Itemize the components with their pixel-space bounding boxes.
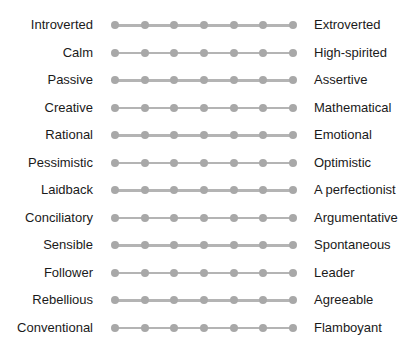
scale-point-7[interactable] (289, 131, 297, 139)
scale-point-4[interactable] (200, 214, 208, 222)
scale-point-6[interactable] (259, 76, 267, 84)
rating-scale[interactable] (111, 184, 297, 196)
scale-point-4[interactable] (200, 76, 208, 84)
scale-point-4[interactable] (200, 241, 208, 249)
scale-point-2[interactable] (141, 21, 149, 29)
scale-point-6[interactable] (259, 324, 267, 332)
scale-point-6[interactable] (259, 104, 267, 112)
rating-scale[interactable] (111, 19, 297, 31)
scale-point-2[interactable] (141, 269, 149, 277)
scale-point-6[interactable] (259, 21, 267, 29)
scale-point-1[interactable] (111, 269, 119, 277)
scale-point-3[interactable] (170, 49, 178, 57)
scale-point-1[interactable] (111, 214, 119, 222)
rating-scale[interactable] (111, 239, 297, 251)
scale-point-7[interactable] (289, 21, 297, 29)
scale-point-1[interactable] (111, 159, 119, 167)
rating-scale[interactable] (111, 129, 297, 141)
scale-point-7[interactable] (289, 324, 297, 332)
scale-point-1[interactable] (111, 76, 119, 84)
scale-point-7[interactable] (289, 104, 297, 112)
scale-point-5[interactable] (230, 186, 238, 194)
right-trait-label: High-spirited (314, 43, 387, 63)
scale-point-2[interactable] (141, 296, 149, 304)
scale-point-6[interactable] (259, 296, 267, 304)
scale-point-4[interactable] (200, 296, 208, 304)
scale-point-7[interactable] (289, 241, 297, 249)
scale-point-4[interactable] (200, 49, 208, 57)
rating-scale[interactable] (111, 47, 297, 59)
scale-point-7[interactable] (289, 269, 297, 277)
scale-point-3[interactable] (170, 269, 178, 277)
left-trait-label: Follower (44, 263, 93, 283)
scale-point-2[interactable] (141, 241, 149, 249)
scale-point-1[interactable] (111, 241, 119, 249)
scale-point-3[interactable] (170, 186, 178, 194)
scale-point-3[interactable] (170, 214, 178, 222)
scale-point-6[interactable] (259, 241, 267, 249)
scale-point-5[interactable] (230, 76, 238, 84)
scale-point-3[interactable] (170, 241, 178, 249)
scale-point-4[interactable] (200, 269, 208, 277)
scale-point-5[interactable] (230, 214, 238, 222)
scale-point-5[interactable] (230, 49, 238, 57)
scale-point-1[interactable] (111, 104, 119, 112)
scale-point-3[interactable] (170, 21, 178, 29)
scale-point-6[interactable] (259, 269, 267, 277)
scale-point-5[interactable] (230, 21, 238, 29)
scale-point-6[interactable] (259, 159, 267, 167)
scale-point-7[interactable] (289, 296, 297, 304)
scale-point-1[interactable] (111, 49, 119, 57)
scale-point-2[interactable] (141, 76, 149, 84)
rating-scale[interactable] (111, 212, 297, 224)
scale-point-1[interactable] (111, 296, 119, 304)
scale-point-7[interactable] (289, 186, 297, 194)
scale-point-4[interactable] (200, 104, 208, 112)
scale-point-4[interactable] (200, 159, 208, 167)
scale-point-6[interactable] (259, 49, 267, 57)
rating-scale[interactable] (111, 294, 297, 306)
scale-point-2[interactable] (141, 104, 149, 112)
scale-point-3[interactable] (170, 76, 178, 84)
scale-point-3[interactable] (170, 296, 178, 304)
trait-row-conciliatory-argumentative: Conciliatory Argumentative (0, 208, 420, 228)
scale-point-4[interactable] (200, 324, 208, 332)
scale-point-6[interactable] (259, 186, 267, 194)
right-trait-label: Leader (314, 263, 354, 283)
scale-point-2[interactable] (141, 49, 149, 57)
rating-scale[interactable] (111, 157, 297, 169)
scale-point-4[interactable] (200, 21, 208, 29)
scale-point-5[interactable] (230, 104, 238, 112)
scale-point-2[interactable] (141, 214, 149, 222)
scale-point-5[interactable] (230, 241, 238, 249)
scale-point-6[interactable] (259, 214, 267, 222)
rating-scale[interactable] (111, 74, 297, 86)
scale-point-1[interactable] (111, 131, 119, 139)
scale-point-3[interactable] (170, 131, 178, 139)
rating-scale[interactable] (111, 267, 297, 279)
scale-point-5[interactable] (230, 324, 238, 332)
scale-point-3[interactable] (170, 324, 178, 332)
scale-point-7[interactable] (289, 159, 297, 167)
scale-point-5[interactable] (230, 269, 238, 277)
scale-point-4[interactable] (200, 186, 208, 194)
scale-point-2[interactable] (141, 186, 149, 194)
scale-point-7[interactable] (289, 214, 297, 222)
scale-point-6[interactable] (259, 131, 267, 139)
scale-point-3[interactable] (170, 104, 178, 112)
scale-point-4[interactable] (200, 131, 208, 139)
rating-scale[interactable] (111, 102, 297, 114)
scale-point-2[interactable] (141, 159, 149, 167)
scale-point-2[interactable] (141, 324, 149, 332)
scale-point-1[interactable] (111, 21, 119, 29)
rating-scale[interactable] (111, 322, 297, 334)
scale-point-1[interactable] (111, 186, 119, 194)
scale-point-3[interactable] (170, 159, 178, 167)
scale-point-5[interactable] (230, 296, 238, 304)
scale-point-7[interactable] (289, 49, 297, 57)
scale-point-5[interactable] (230, 159, 238, 167)
scale-point-2[interactable] (141, 131, 149, 139)
scale-point-7[interactable] (289, 76, 297, 84)
scale-point-5[interactable] (230, 131, 238, 139)
scale-point-1[interactable] (111, 324, 119, 332)
